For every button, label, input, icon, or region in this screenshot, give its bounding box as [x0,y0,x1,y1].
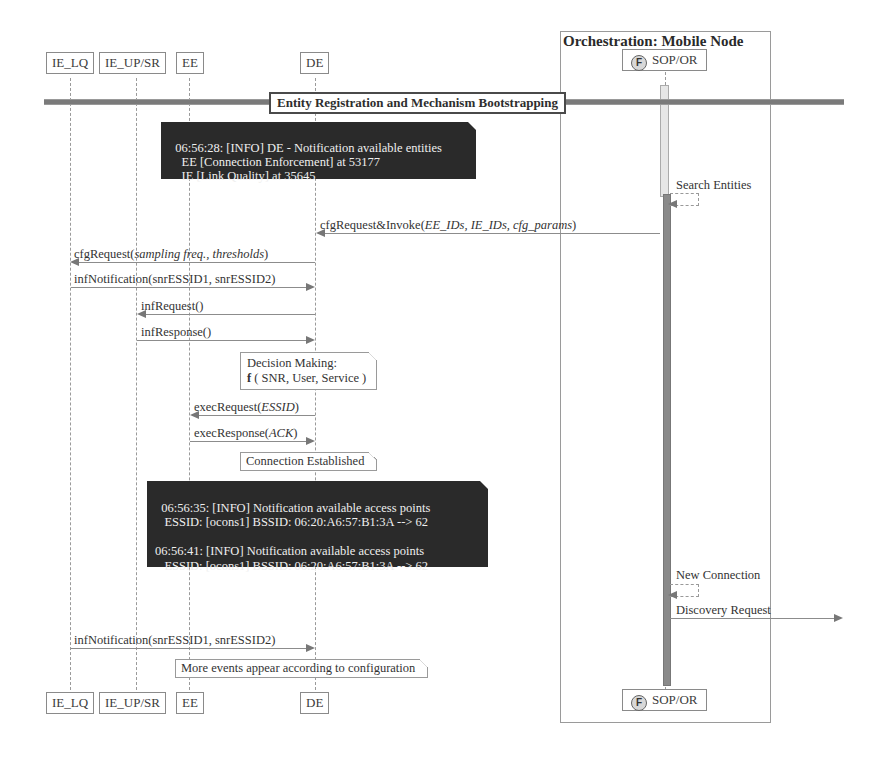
msg-inf-notification-2-label: infNotification(snrESSID1, snrESSID2) [74,633,275,648]
participant-sop-or-label: SOP/OR [652,52,698,67]
participant-sop-or-bottom: FSOP/OR [622,689,707,711]
note-fold-corner [369,352,377,360]
msg-inf-response-line [137,340,307,341]
participant-ie-up-sr-bottom: IE_UP/SR [99,692,166,714]
msg-inf-request-label: infRequest() [141,299,203,314]
msg-cfg-request-invoke-line [318,233,660,234]
lifeline-ie-up-sr [136,78,137,695]
msg-exec-request-label: execRequest(ESSID) [194,400,299,415]
entities-log-note: 06:56:28: [INFO] DE - Notification avail… [161,122,476,179]
lifeline-ie-lq [70,78,71,695]
msg-inf-notification-1-arrowhead [306,283,315,291]
msg-discovery-request-arrowhead [834,614,843,622]
orchestration-group-title: Orchestration: Mobile Node [563,33,744,50]
decision-making-function: f ( SNR, User, Service ) [247,371,366,386]
note-fold-corner [468,122,476,130]
decision-making-note: Decision Making: f ( SNR, User, Service … [240,352,377,390]
msg-exec-request-arrowhead [190,411,199,419]
msg-inf-notification-2-arrowhead [306,644,315,652]
msg-inf-response-arrowhead [306,336,315,344]
msg-inf-notification-2-line [71,648,307,649]
msg-exec-response-arrowhead [306,437,315,445]
note-fold-corner [480,481,488,489]
msg-new-connection-label: New Connection [676,568,760,583]
msg-cfg-request-invoke-arrowhead [316,229,325,237]
msg-exec-response-line [190,441,307,442]
msg-inf-request-arrowhead [137,310,146,318]
msg-inf-notification-1-line [71,287,307,288]
participant-ee-bottom: EE [176,692,204,714]
f-icon: F [631,695,647,711]
section-divider-label: Entity Registration and Mechanism Bootst… [269,92,566,114]
msg-exec-request-line [193,415,315,416]
access-points-log-note: 06:56:35: [INFO] Notification available … [147,481,488,567]
participant-sop-or-label: SOP/OR [652,692,698,707]
participant-ie-lq-top: IE_LQ [46,52,94,74]
access-points-log-text: 06:56:35: [INFO] Notification available … [155,501,430,573]
f-icon: F [631,55,647,71]
msg-discovery-request-label: Discovery Request [676,603,771,618]
entities-log-text: 06:56:28: [INFO] DE - Notification avail… [169,141,442,183]
msg-new-connection-arrowhead [668,591,677,599]
participant-de-top: DE [300,52,329,74]
msg-discovery-request-line [670,618,834,619]
more-events-note: More events appear according to configur… [175,659,428,678]
msg-cfg-request-arrowhead [70,258,79,266]
msg-cfg-request-label: cfgRequest(sampling freq., thresholds) [74,247,268,262]
activation-bar-sop-or [663,194,671,686]
note-fold-corner [420,659,428,667]
participant-ie-up-sr-top: IE_UP/SR [99,52,166,74]
msg-inf-notification-1-label: infNotification(snrESSID1, snrESSID2) [74,272,275,287]
decision-making-title: Decision Making: [247,356,366,371]
participant-ie-lq-bottom: IE_LQ [46,692,94,714]
participant-sop-or-top: FSOP/OR [622,49,707,71]
participant-ee-top: EE [176,52,204,74]
more-events-text: More events appear according to configur… [181,661,415,675]
note-fold-corner [369,452,377,460]
msg-cfg-request-invoke-label: cfgRequest&Invoke(EE_IDs, IE_IDs, cfg_pa… [320,218,576,233]
msg-exec-response-label: execResponse(ACK) [194,426,297,441]
msg-inf-response-label: infResponse() [141,325,211,340]
participant-de-bottom: DE [300,692,329,714]
msg-cfg-request-line [72,262,315,263]
msg-search-entities-label: Search Entities [676,178,751,193]
connection-established-note: Connection Established [240,452,377,471]
msg-inf-request-line [140,314,315,315]
msg-search-entities-arrowhead [668,200,677,208]
connection-established-text: Connection Established [246,454,364,468]
